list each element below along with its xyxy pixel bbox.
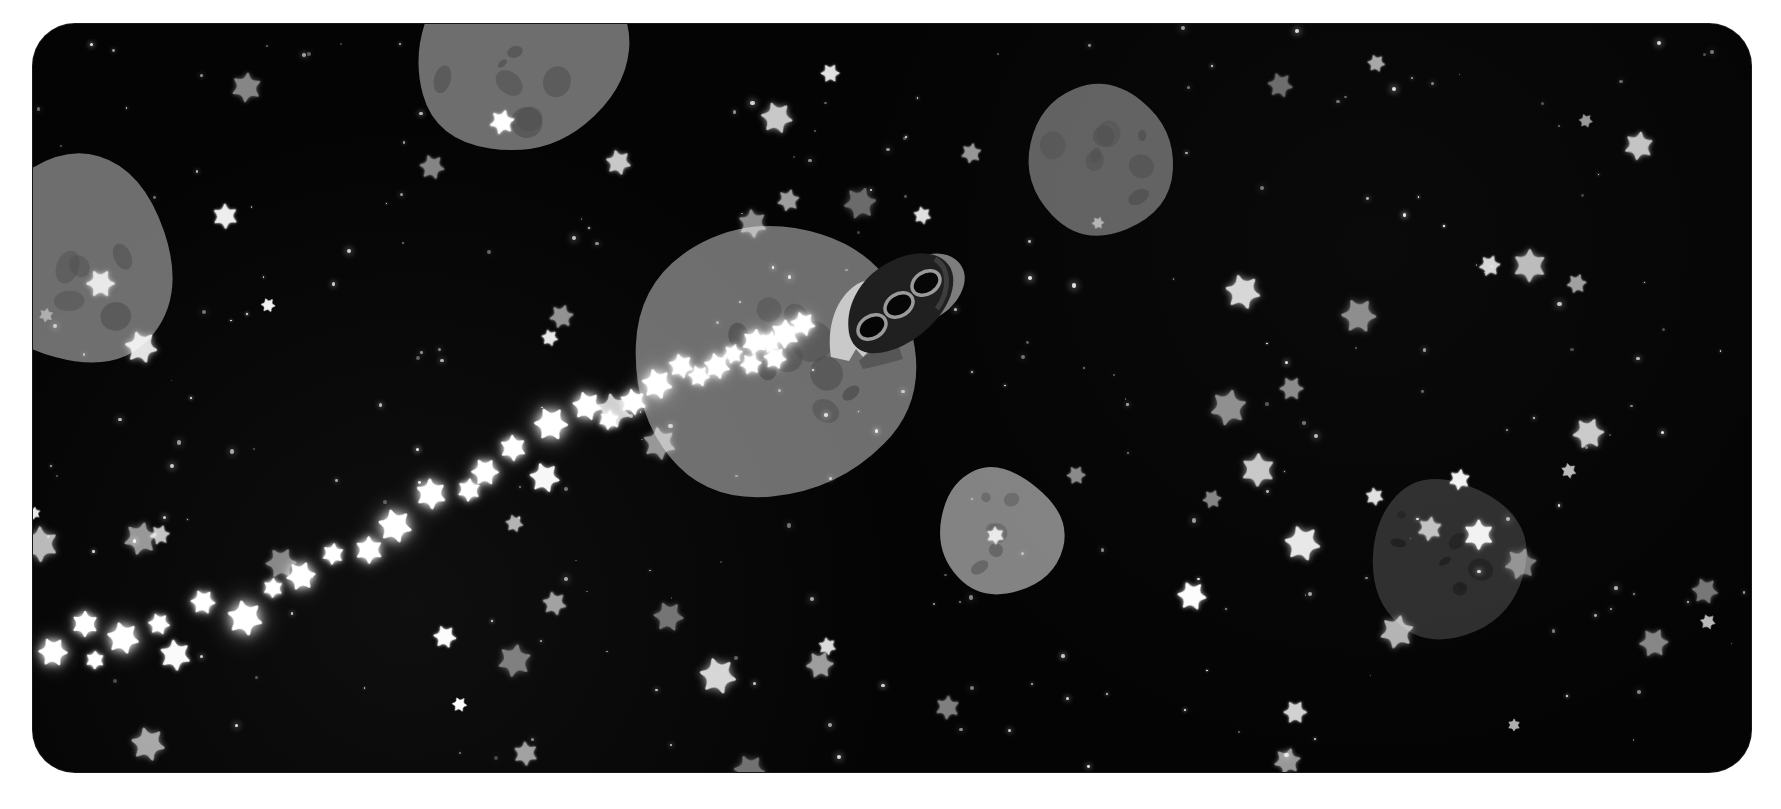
star-dot [1302, 421, 1306, 425]
star-dot [881, 684, 884, 687]
star-dot [1558, 504, 1560, 506]
star-icon [546, 301, 577, 332]
star-dot [1541, 102, 1544, 105]
sparkle-icon [145, 610, 173, 638]
star-dot [347, 249, 351, 253]
star-dot [1636, 357, 1640, 361]
sparkle-icon [454, 475, 484, 505]
star-dot [903, 137, 906, 140]
star-dot [1570, 348, 1574, 352]
star-dot [1644, 282, 1645, 283]
star-dot [235, 724, 239, 728]
star-dot [1061, 654, 1064, 657]
sparkle-icon [187, 586, 219, 618]
star-dot [1225, 608, 1227, 610]
star-icon [503, 512, 526, 535]
star-icon [1635, 624, 1673, 662]
star-dot [997, 53, 999, 55]
asteroid-top-right [991, 57, 1205, 267]
star-icon [1564, 271, 1589, 296]
star-dot [1411, 77, 1413, 79]
star-icon [1365, 52, 1388, 75]
star-icon [227, 68, 266, 107]
star-dot [828, 723, 832, 727]
asteroid-top-center [342, 24, 694, 212]
sparkle-icon [102, 617, 144, 659]
star-dot [56, 475, 59, 478]
star-icon [1476, 252, 1504, 280]
star-icon [430, 622, 460, 652]
star-dot [1305, 594, 1307, 596]
screenshot-root: Rocket flying through an asteroid field [0, 0, 1781, 809]
star-dot [1266, 490, 1269, 493]
star-dot [733, 110, 736, 113]
star-dot [1087, 765, 1090, 768]
star-dot [1720, 350, 1721, 351]
star-dot [1028, 276, 1032, 280]
star-dot [519, 486, 522, 489]
star-dot [1484, 272, 1485, 273]
star-dot [1533, 417, 1535, 419]
star-dot [1197, 578, 1199, 580]
space-scene-canvas[interactable]: Rocket flying through an asteroid field [33, 24, 1751, 772]
star-dot [1731, 643, 1732, 644]
star-icon [1688, 574, 1722, 608]
star-dot [750, 101, 754, 105]
star-dot [1127, 452, 1130, 455]
rocket-ship[interactable] [823, 239, 973, 369]
star-icon [729, 750, 770, 772]
star-icon [525, 458, 564, 497]
star-dot [1284, 753, 1288, 757]
star-dot [787, 523, 791, 527]
star-dot [1008, 729, 1011, 732]
star-dot [540, 640, 542, 642]
sparkle-icon [34, 633, 72, 671]
star-icon [932, 692, 963, 723]
star-dot [487, 250, 491, 254]
sparkle-icon [83, 648, 107, 672]
star-dot [649, 570, 651, 572]
asteroid-left-edge [33, 101, 236, 416]
star-icon [1276, 373, 1307, 404]
star-dot [588, 227, 590, 229]
star-icon [802, 647, 838, 683]
star-dot [230, 320, 232, 322]
sparkle-icon [568, 387, 606, 425]
star-dot [1088, 44, 1091, 47]
star-dot [133, 539, 136, 542]
star-dot [564, 577, 568, 581]
star-dot [1687, 601, 1689, 603]
star-dot [251, 206, 252, 207]
star-icon [33, 521, 64, 567]
star-dot [1295, 29, 1299, 33]
star-dot [37, 107, 40, 110]
star-dot [1633, 739, 1635, 741]
star-dot [1184, 709, 1186, 711]
star-icon [756, 97, 798, 139]
star-dot [50, 465, 52, 467]
sparkle-icon [282, 557, 320, 595]
star-dot [1490, 265, 1493, 268]
star-dot [971, 371, 973, 373]
star-icon [33, 505, 42, 521]
star-dot [266, 45, 268, 47]
star-icon [1205, 384, 1252, 431]
star-dot [753, 682, 756, 685]
star-dot [581, 218, 583, 220]
star-dot [1557, 302, 1561, 306]
star-dot [1314, 434, 1318, 438]
star-icon [1264, 69, 1296, 101]
star-dot [1366, 197, 1369, 200]
star-dot [230, 449, 234, 453]
star-dot [440, 359, 443, 362]
star-dot [1126, 403, 1129, 406]
star-dot [335, 479, 338, 482]
star-dot [586, 591, 588, 593]
star-icon [147, 522, 173, 548]
star-dot [1403, 213, 1406, 216]
star-dot [1355, 347, 1357, 349]
sparkle-icon [373, 504, 417, 548]
star-dot [1125, 398, 1127, 400]
star-dot [1101, 548, 1104, 551]
star-dot [196, 170, 198, 172]
